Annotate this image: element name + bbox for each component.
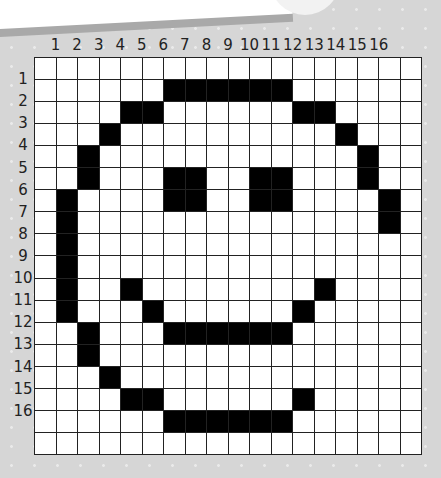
- empty-cell[interactable]: [57, 345, 78, 366]
- empty-cell[interactable]: [272, 389, 293, 410]
- empty-cell[interactable]: [35, 389, 56, 410]
- empty-cell[interactable]: [207, 58, 228, 79]
- empty-cell[interactable]: [57, 433, 78, 454]
- empty-cell[interactable]: [35, 102, 56, 123]
- empty-cell[interactable]: [379, 389, 400, 410]
- filled-cell[interactable]: [207, 411, 228, 432]
- empty-cell[interactable]: [272, 212, 293, 233]
- empty-cell[interactable]: [186, 256, 207, 277]
- empty-cell[interactable]: [78, 411, 99, 432]
- filled-cell[interactable]: [143, 301, 164, 322]
- empty-cell[interactable]: [272, 102, 293, 123]
- empty-cell[interactable]: [250, 212, 271, 233]
- empty-cell[interactable]: [315, 433, 336, 454]
- empty-cell[interactable]: [250, 58, 271, 79]
- empty-cell[interactable]: [315, 389, 336, 410]
- empty-cell[interactable]: [229, 212, 250, 233]
- empty-cell[interactable]: [207, 234, 228, 255]
- filled-cell[interactable]: [143, 102, 164, 123]
- empty-cell[interactable]: [186, 433, 207, 454]
- filled-cell[interactable]: [100, 367, 121, 388]
- filled-cell[interactable]: [78, 323, 99, 344]
- empty-cell[interactable]: [229, 367, 250, 388]
- empty-cell[interactable]: [401, 256, 422, 277]
- empty-cell[interactable]: [35, 58, 56, 79]
- empty-cell[interactable]: [229, 433, 250, 454]
- empty-cell[interactable]: [35, 433, 56, 454]
- empty-cell[interactable]: [35, 124, 56, 145]
- empty-cell[interactable]: [401, 80, 422, 101]
- empty-cell[interactable]: [229, 256, 250, 277]
- empty-cell[interactable]: [336, 190, 357, 211]
- filled-cell[interactable]: [121, 102, 142, 123]
- empty-cell[interactable]: [293, 190, 314, 211]
- empty-cell[interactable]: [207, 124, 228, 145]
- empty-cell[interactable]: [358, 411, 379, 432]
- empty-cell[interactable]: [229, 102, 250, 123]
- empty-cell[interactable]: [100, 234, 121, 255]
- empty-cell[interactable]: [100, 389, 121, 410]
- empty-cell[interactable]: [250, 345, 271, 366]
- filled-cell[interactable]: [229, 80, 250, 101]
- empty-cell[interactable]: [272, 367, 293, 388]
- empty-cell[interactable]: [121, 367, 142, 388]
- empty-cell[interactable]: [293, 323, 314, 344]
- filled-cell[interactable]: [121, 389, 142, 410]
- empty-cell[interactable]: [315, 411, 336, 432]
- empty-cell[interactable]: [186, 102, 207, 123]
- empty-cell[interactable]: [229, 168, 250, 189]
- filled-cell[interactable]: [164, 323, 185, 344]
- empty-cell[interactable]: [35, 256, 56, 277]
- empty-cell[interactable]: [143, 279, 164, 300]
- empty-cell[interactable]: [186, 301, 207, 322]
- empty-cell[interactable]: [35, 146, 56, 167]
- empty-cell[interactable]: [358, 80, 379, 101]
- empty-cell[interactable]: [164, 146, 185, 167]
- empty-cell[interactable]: [186, 124, 207, 145]
- empty-cell[interactable]: [186, 345, 207, 366]
- empty-cell[interactable]: [401, 345, 422, 366]
- empty-cell[interactable]: [336, 80, 357, 101]
- empty-cell[interactable]: [336, 411, 357, 432]
- empty-cell[interactable]: [57, 124, 78, 145]
- empty-cell[interactable]: [293, 234, 314, 255]
- empty-cell[interactable]: [229, 234, 250, 255]
- empty-cell[interactable]: [100, 190, 121, 211]
- empty-cell[interactable]: [186, 389, 207, 410]
- filled-cell[interactable]: [293, 301, 314, 322]
- empty-cell[interactable]: [121, 301, 142, 322]
- filled-cell[interactable]: [186, 168, 207, 189]
- empty-cell[interactable]: [315, 234, 336, 255]
- empty-cell[interactable]: [186, 58, 207, 79]
- filled-cell[interactable]: [272, 323, 293, 344]
- filled-cell[interactable]: [186, 411, 207, 432]
- empty-cell[interactable]: [379, 345, 400, 366]
- empty-cell[interactable]: [78, 389, 99, 410]
- empty-cell[interactable]: [293, 58, 314, 79]
- filled-cell[interactable]: [57, 256, 78, 277]
- empty-cell[interactable]: [379, 323, 400, 344]
- empty-cell[interactable]: [379, 411, 400, 432]
- filled-cell[interactable]: [293, 389, 314, 410]
- empty-cell[interactable]: [35, 212, 56, 233]
- empty-cell[interactable]: [315, 58, 336, 79]
- empty-cell[interactable]: [293, 367, 314, 388]
- empty-cell[interactable]: [186, 146, 207, 167]
- empty-cell[interactable]: [272, 279, 293, 300]
- empty-cell[interactable]: [35, 190, 56, 211]
- filled-cell[interactable]: [250, 411, 271, 432]
- empty-cell[interactable]: [250, 256, 271, 277]
- filled-cell[interactable]: [336, 124, 357, 145]
- empty-cell[interactable]: [100, 146, 121, 167]
- empty-cell[interactable]: [336, 301, 357, 322]
- empty-cell[interactable]: [121, 124, 142, 145]
- empty-cell[interactable]: [293, 433, 314, 454]
- empty-cell[interactable]: [379, 146, 400, 167]
- empty-cell[interactable]: [293, 256, 314, 277]
- empty-cell[interactable]: [272, 146, 293, 167]
- empty-cell[interactable]: [379, 168, 400, 189]
- filled-cell[interactable]: [57, 190, 78, 211]
- empty-cell[interactable]: [379, 256, 400, 277]
- filled-cell[interactable]: [78, 168, 99, 189]
- filled-cell[interactable]: [164, 168, 185, 189]
